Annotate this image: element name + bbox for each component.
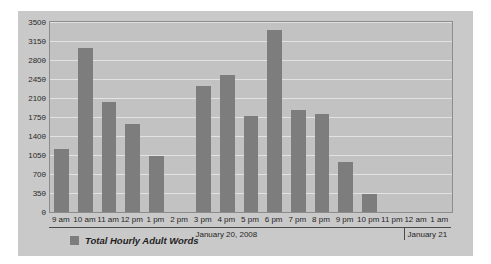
y-axis-tick-mark	[43, 174, 46, 175]
x-axis-tick-label: 9 am	[49, 215, 73, 224]
y-axis-tick-mark	[43, 193, 46, 194]
legend: Total Hourly Adult Words	[70, 235, 199, 246]
date-band-label: January 21	[404, 230, 451, 239]
gridline	[50, 98, 452, 99]
x-axis-tick-label: 10 am	[73, 215, 97, 224]
x-axis-tick-label: 10 pm	[356, 215, 380, 224]
bar	[125, 124, 140, 212]
bar	[220, 75, 235, 212]
plot-area	[49, 21, 453, 213]
bar	[315, 114, 330, 212]
y-axis-tick-mark	[43, 79, 46, 80]
x-axis-tick-label: 6 pm	[262, 215, 286, 224]
x-axis-tick-label: 12 am	[404, 215, 428, 224]
x-axis: 9 am10 am11 am12 pm1 pm2 pm3 pm4 pm5 pm6…	[49, 215, 453, 227]
bar	[244, 116, 259, 212]
date-band-rule	[49, 227, 404, 228]
x-axis-tick-label: 1 pm	[144, 215, 168, 224]
x-axis-tick-label: 9 pm	[333, 215, 357, 224]
bar	[54, 149, 69, 213]
y-axis-tick-mark	[43, 136, 46, 137]
bar	[149, 156, 164, 212]
legend-label: Total Hourly Adult Words	[85, 235, 199, 246]
gridline	[50, 41, 452, 42]
x-axis-tick-label: 5 pm	[238, 215, 262, 224]
y-axis-tick-mark	[43, 117, 46, 118]
x-axis-tick-label: 4 pm	[215, 215, 239, 224]
x-axis-tick-label: 8 pm	[309, 215, 333, 224]
bar	[362, 194, 377, 212]
x-axis-tick-label: 3 pm	[191, 215, 215, 224]
y-axis-tick-mark	[43, 98, 46, 99]
bar	[338, 162, 353, 212]
legend-swatch	[70, 236, 79, 245]
x-axis-tick-label: 2 pm	[167, 215, 191, 224]
bar	[291, 110, 306, 212]
x-axis-tick-label: 12 pm	[120, 215, 144, 224]
gridline	[50, 79, 452, 80]
bar	[78, 48, 93, 212]
x-axis-tick-label: 11 pm	[380, 215, 404, 224]
gridline	[50, 60, 452, 61]
bar	[267, 30, 282, 212]
y-axis-tick-mark	[43, 212, 46, 213]
x-axis-tick-label: 1 am	[427, 215, 451, 224]
bar	[102, 102, 117, 212]
y-axis-tick-mark	[43, 41, 46, 42]
x-axis-tick-label: 7 pm	[285, 215, 309, 224]
date-band-rule	[404, 227, 451, 228]
y-axis-tick-mark	[43, 60, 46, 61]
y-axis: 035070010501400175021002450280031503500	[18, 21, 46, 213]
chart-card: 035070010501400175021002450280031503500 …	[18, 11, 473, 256]
y-axis-tick-mark	[43, 155, 46, 156]
x-axis-tick-label: 11 am	[96, 215, 120, 224]
bar	[196, 86, 211, 212]
gridline	[50, 22, 452, 23]
y-axis-tick-mark	[43, 22, 46, 23]
